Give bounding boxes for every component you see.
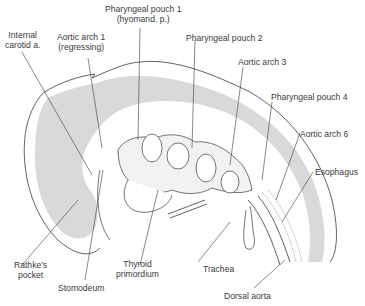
arch-3	[196, 154, 216, 182]
label-internal-carotid: Internal carotid a.	[5, 30, 40, 50]
label-rathkes-pocket: Rathke's pocket	[14, 260, 47, 280]
arch-1	[142, 134, 162, 162]
arch-4	[221, 171, 239, 193]
embryo-diagram	[0, 0, 365, 306]
esophagus-tube	[248, 196, 290, 265]
label-thyroid-primordium: Thyroid primordium	[116, 259, 159, 279]
label-trachea: Trachea	[203, 264, 234, 274]
label-aortic-arch-1: Aortic arch 1 (regressing)	[57, 32, 105, 52]
label-stomodeum: Stomodeum	[58, 283, 104, 293]
label-pharyngeal-pouch-4: Pharyngeal pouch 4	[271, 92, 347, 102]
rathke-loop	[98, 170, 110, 240]
arch-2	[167, 143, 189, 169]
thyroid-stalk	[168, 200, 207, 218]
label-aortic-arch-3: Aortic arch 3	[238, 57, 286, 67]
label-aortic-arch-6: Aortic arch 6	[300, 129, 348, 139]
trachea-bud	[244, 206, 255, 249]
label-pharyngeal-pouch-1: Pharyngeal pouch 1 (hyomand. p.)	[105, 4, 181, 24]
label-pharyngeal-pouch-2: Pharyngeal pouch 2	[186, 33, 262, 43]
label-esophagus: Esophagus	[315, 167, 358, 177]
label-dorsal-aorta: Dorsal aorta	[224, 291, 271, 301]
